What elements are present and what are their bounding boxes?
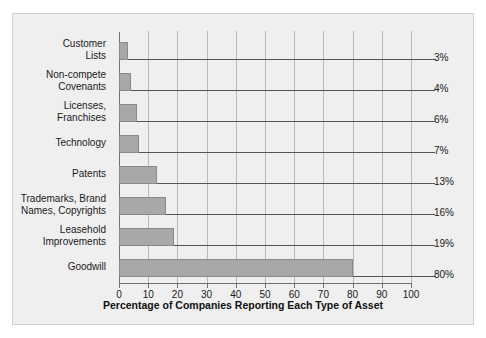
- x-axis-title: Percentage of Companies Reporting Each T…: [12, 299, 474, 311]
- gridline: [411, 35, 412, 283]
- bar-row: [119, 73, 411, 91]
- bar-row: [119, 166, 411, 184]
- bar-row: [119, 42, 411, 60]
- bar-row: [119, 135, 411, 153]
- x-axis-tick: [353, 284, 354, 288]
- value-label: 16%: [434, 207, 454, 218]
- bar-row: [119, 259, 411, 277]
- x-axis-tick: [294, 284, 295, 288]
- chart-screenshot: 0102030405060708090100 Customer ListsNon…: [0, 0, 486, 338]
- leader-line: [131, 90, 435, 91]
- gridline-top-tick: [294, 31, 295, 35]
- leader-line: [128, 59, 435, 60]
- category-label: Customer Lists: [63, 38, 106, 61]
- gridline-top-tick: [411, 31, 412, 35]
- bar: [119, 197, 166, 215]
- bar: [119, 42, 128, 60]
- value-label: 19%: [434, 238, 454, 249]
- gridline-top-tick: [353, 31, 354, 35]
- bar: [119, 228, 174, 246]
- bar-row: [119, 197, 411, 215]
- category-label: Leasehold Improvements: [43, 224, 106, 247]
- leader-line: [166, 214, 435, 215]
- bar: [119, 73, 131, 91]
- leader-line: [174, 245, 435, 246]
- value-label: 3%: [434, 52, 448, 63]
- x-axis-tick: [148, 284, 149, 288]
- value-labels: 3%4%6%7%13%16%19%80%: [434, 34, 480, 282]
- value-label: 4%: [434, 83, 448, 94]
- gridline-top-tick: [382, 31, 383, 35]
- leader-line: [137, 121, 435, 122]
- gridline-top-tick: [148, 31, 149, 35]
- x-axis-tick: [382, 284, 383, 288]
- value-label: 7%: [434, 145, 448, 156]
- bar: [119, 104, 137, 122]
- x-axis-tick: [119, 284, 120, 288]
- leader-line: [353, 276, 435, 277]
- gridline-top-tick: [207, 31, 208, 35]
- plot-area: 0102030405060708090100: [119, 35, 411, 283]
- value-label: 80%: [434, 269, 454, 280]
- category-label: Non-compete Covenants: [46, 69, 106, 92]
- y-axis-line: [119, 32, 120, 286]
- category-label: Trademarks, Brand Names, Copyrights: [21, 193, 106, 216]
- category-label: Patents: [72, 168, 106, 180]
- x-axis-tick: [207, 284, 208, 288]
- leader-line: [157, 183, 435, 184]
- leader-line: [139, 152, 435, 153]
- value-label: 13%: [434, 176, 454, 187]
- x-axis-tick: [236, 284, 237, 288]
- bar: [119, 166, 157, 184]
- category-label: Goodwill: [68, 261, 106, 273]
- category-label: Technology: [55, 137, 106, 149]
- bar: [119, 135, 139, 153]
- x-axis-tick: [411, 284, 412, 288]
- bar: [119, 259, 353, 277]
- category-labels: Customer ListsNon-compete CovenantsLicen…: [12, 34, 112, 282]
- gridline-top-tick: [236, 31, 237, 35]
- x-axis-tick: [265, 284, 266, 288]
- bar-row: [119, 104, 411, 122]
- gridline-top-tick: [323, 31, 324, 35]
- x-axis-tick: [323, 284, 324, 288]
- gridline-top-tick: [265, 31, 266, 35]
- gridline-top-tick: [177, 31, 178, 35]
- x-axis-tick: [177, 284, 178, 288]
- bar-row: [119, 228, 411, 246]
- category-label: Licenses, Franchises: [57, 100, 106, 123]
- value-label: 6%: [434, 114, 448, 125]
